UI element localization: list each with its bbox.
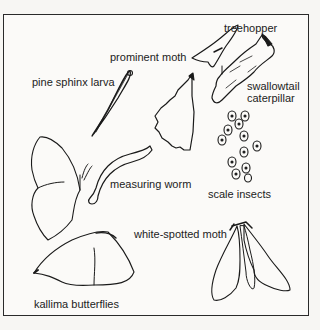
measuring-worm-drawing [89,146,152,204]
insect-illustrations [0,0,320,330]
label-scale-insects: scale insects [208,188,271,200]
label-treehopper: treehopper [224,22,277,34]
label-pine-sphinx-larva: pine sphinx larva [32,76,115,88]
kallima-butterfly-upper-drawing [31,137,92,240]
label-measuring-worm: measuring worm [110,178,191,190]
label-kallima-butterflies: kallima butterflies [34,298,119,310]
scale-insects-drawing [218,111,261,182]
label-swallowtail-line2: caterpillar [247,92,295,104]
prominent-moth-drawing [155,73,194,150]
label-prominent-moth: prominent moth [110,51,186,63]
label-swallowtail-line1: swallowtail [247,80,300,92]
label-white-spotted-moth: white-spotted moth [134,228,227,240]
